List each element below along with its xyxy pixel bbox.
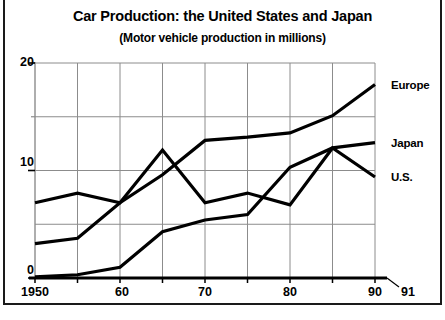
- axis-break-mark: [387, 278, 399, 287]
- axis-ticks-group: [28, 63, 375, 283]
- chart-figure: Car Production: the United States and Ja…: [0, 0, 445, 320]
- axes-group: [29, 62, 399, 287]
- plot-area: [0, 0, 445, 320]
